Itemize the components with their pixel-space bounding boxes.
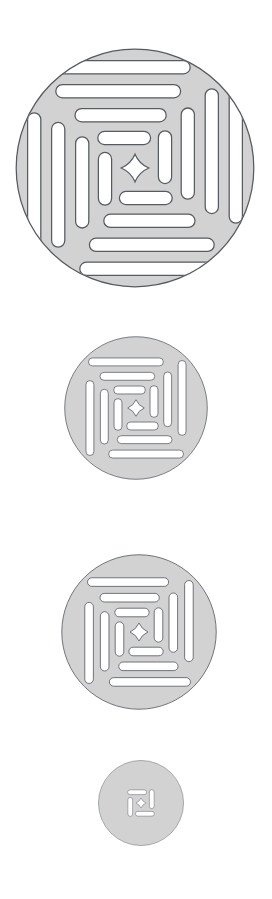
seal-glyph-vector [61, 554, 217, 710]
artboard [0, 0, 272, 899]
seal-glyph-icon [61, 554, 217, 710]
seal-glyph-icon [15, 48, 255, 288]
seal-glyph-icon [98, 760, 184, 846]
seal-glyph-vector [64, 336, 208, 480]
seal-glyph-vector [98, 760, 184, 846]
seal-glyph-icon [64, 336, 208, 480]
seal-glyph-vector [15, 48, 255, 288]
